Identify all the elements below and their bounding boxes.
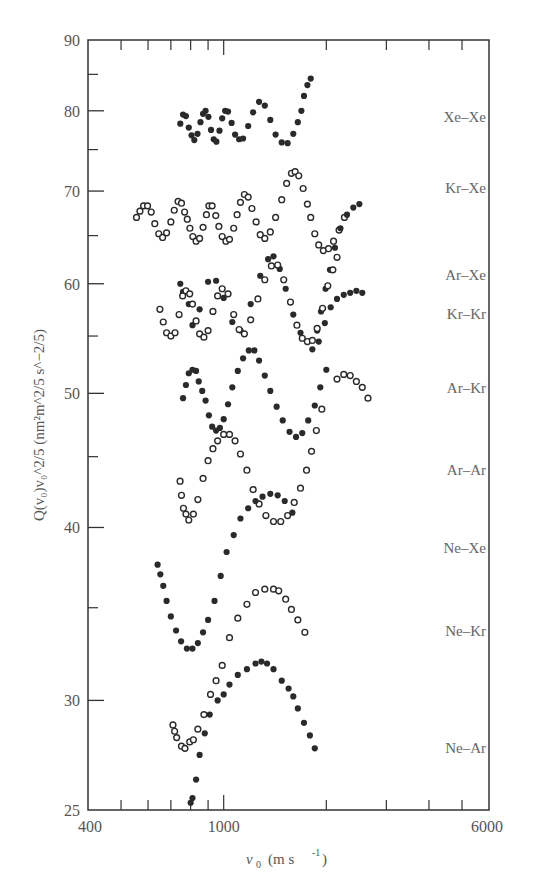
x-axis-title: v 0 (m s -1 ) — [246, 847, 327, 870]
y-tick-label: 80 — [64, 103, 80, 120]
x-tick-label: 6000 — [471, 818, 503, 835]
series-ne-xe — [154, 491, 295, 652]
x-title-var: v — [246, 851, 253, 867]
y-axis: 2530405060708090 — [64, 32, 104, 819]
y-tick-label: 70 — [64, 183, 80, 200]
plot-frame — [88, 40, 489, 810]
series-kr-xe — [134, 169, 348, 254]
y-tick-label: 40 — [64, 519, 80, 536]
y-tick-label: 90 — [64, 32, 80, 49]
series-label: Ne–Kr — [445, 623, 486, 639]
x-title-exp: -1 — [312, 847, 320, 858]
series-label: Ne–Xe — [444, 540, 487, 556]
series-label: Ar–Xe — [445, 267, 486, 283]
series-kr-kr — [157, 254, 340, 344]
y-axis-title: Q(v₀)v₀^2/5 (nm²m^2/5 s^−2/5) — [31, 329, 48, 521]
series-kr-kr-filled-tail- — [316, 288, 366, 345]
series-label: Ar–Kr — [447, 380, 486, 396]
series-label: Xe–Xe — [444, 109, 487, 125]
y-tick-label: 60 — [64, 276, 80, 293]
series-ne-kr — [170, 586, 308, 751]
series-ar-ar — [177, 406, 325, 524]
data-points — [134, 76, 371, 806]
series-label: Ne–Ar — [445, 740, 486, 756]
y-title: Q(v₀)v₀^2/5 (nm²m^2/5 s^−2/5) — [31, 329, 48, 521]
series-label: Kr–Xe — [445, 180, 486, 196]
series-labels: Xe–XeKr–XeAr–XeKr–KrAr–KrAr–ArNe–XeNe–Kr… — [444, 109, 487, 756]
y-tick-label: 25 — [64, 802, 80, 819]
chart: 2530405060708090 40010006000 Xe–XeKr–XeA… — [0, 0, 534, 887]
x-tick-label: 400 — [78, 818, 102, 835]
x-tick-label: 1000 — [208, 818, 240, 835]
y-tick-label: 30 — [64, 692, 80, 709]
series-label: Ar–Ar — [447, 462, 486, 478]
x-axis: 40010006000 — [78, 40, 503, 835]
series-ne-ar — [188, 659, 318, 806]
series-label: Kr–Kr — [447, 306, 486, 322]
x-title-unit: (m s — [268, 851, 294, 868]
x-title-sub: 0 — [256, 859, 261, 870]
series-ar-kr — [180, 347, 329, 440]
series-ar-kr-open-tail- — [334, 371, 371, 401]
y-tick-label: 50 — [64, 385, 80, 402]
x-title-close: ) — [322, 851, 327, 868]
series-xe-xe — [177, 76, 314, 147]
